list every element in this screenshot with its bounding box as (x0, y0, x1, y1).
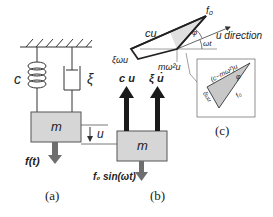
disp-label: u (97, 127, 104, 141)
spring-force-arrow (119, 86, 134, 131)
caption-b: (b) (150, 188, 165, 203)
mass-label-a: m (51, 119, 62, 134)
wt-label: ωt (203, 39, 212, 48)
phi-label: φ (192, 28, 197, 37)
mass-label-b: m (137, 138, 148, 153)
force-label-a: f(t) (25, 155, 40, 167)
spring-label: c (14, 71, 21, 87)
caption-a: (a) (45, 188, 59, 203)
u-direction-label: u direction (216, 30, 263, 41)
ceiling-hatch (26, 39, 92, 47)
force-arrow-b (135, 161, 148, 181)
force-label-b: f₀ sin(ωt) (93, 171, 137, 182)
spring-icon (28, 47, 46, 112)
damper-label: ξ (87, 71, 94, 87)
f0-label: f₀ (206, 5, 213, 16)
cu-label: cu (145, 27, 157, 39)
inset-leader-line (186, 53, 197, 82)
caption-c: (c) (215, 123, 229, 138)
damper-force-label: ξ u̇ (149, 72, 164, 85)
force-arrow-a (48, 142, 62, 164)
xi-omega-u-label: ξωu (112, 55, 128, 65)
inertia-label: mω²u (158, 62, 181, 72)
vibration-diagram: c ξ m u f(t) (a) m c u (0, 0, 273, 217)
damper-icon (64, 47, 80, 112)
spring-force-label: c u (119, 72, 135, 84)
wt-arc (200, 40, 202, 49)
panel-b: m c u ξ u̇ f₀ sin(ωt) (b) (93, 72, 167, 203)
inset-phi-label: φ (236, 73, 241, 81)
damper-force-arrow (150, 86, 165, 131)
